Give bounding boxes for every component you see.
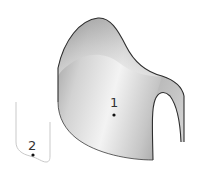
surface-inner-arch bbox=[155, 76, 184, 142]
point-1-label: 1 bbox=[110, 95, 118, 110]
surface-diagram: 1 2 bbox=[0, 0, 204, 177]
open-curve bbox=[16, 102, 50, 162]
point-1-marker bbox=[112, 113, 115, 116]
point-2-label: 2 bbox=[28, 138, 36, 153]
point-2-marker bbox=[31, 153, 34, 156]
